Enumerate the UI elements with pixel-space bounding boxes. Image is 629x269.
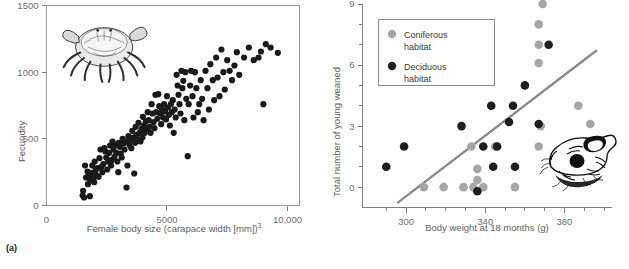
data-point — [175, 92, 181, 98]
data-point — [196, 101, 202, 107]
data-point — [214, 74, 220, 80]
data-point — [534, 120, 543, 129]
data-point — [187, 82, 193, 88]
figure-scatter-plots: 050010001500 0500010,000 — [0, 0, 629, 269]
data-point — [167, 122, 173, 128]
data-point — [189, 93, 195, 99]
data-point — [177, 110, 183, 116]
data-point — [439, 183, 448, 192]
squirrel-illustration — [540, 135, 616, 191]
data-point — [236, 72, 242, 78]
data-point — [190, 114, 196, 120]
svg-text:9: 9 — [349, 0, 354, 9]
data-point — [181, 117, 187, 123]
data-point — [213, 54, 219, 60]
data-point — [258, 48, 264, 54]
data-point — [534, 20, 543, 29]
data-point — [202, 68, 208, 74]
panel-b-xlabel: Body weight at 18 months (g) — [362, 222, 612, 233]
data-point — [201, 117, 207, 123]
svg-text:0: 0 — [349, 182, 354, 193]
data-point — [207, 61, 213, 67]
data-point — [206, 106, 212, 112]
svg-text:0: 0 — [33, 200, 38, 211]
panel-b-legend: ConiferoushabitatDeciduoushabitat — [378, 19, 494, 85]
data-point — [234, 49, 240, 55]
data-point — [204, 85, 210, 91]
data-point — [211, 97, 217, 103]
data-point — [174, 72, 180, 78]
data-point — [511, 183, 520, 192]
data-point — [119, 154, 125, 160]
data-point — [172, 106, 178, 112]
data-point — [186, 101, 192, 107]
data-point — [505, 118, 514, 127]
data-point — [115, 169, 121, 175]
panel-a-crab-fecundity: 050010001500 0500010,000 — [0, 0, 315, 269]
data-point — [155, 91, 161, 97]
panel-b-y-axis: 0369 — [349, 0, 362, 193]
data-point — [185, 153, 191, 159]
data-point — [80, 188, 86, 194]
data-point — [267, 44, 273, 50]
data-point — [574, 101, 583, 110]
data-point — [171, 130, 177, 136]
data-point — [231, 62, 237, 68]
data-point — [509, 101, 518, 110]
data-point — [182, 69, 188, 75]
data-point — [121, 146, 127, 152]
data-point — [91, 179, 97, 185]
data-point — [493, 142, 502, 151]
data-point — [87, 193, 93, 199]
data-point — [473, 176, 482, 185]
data-point — [220, 69, 226, 75]
data-point — [229, 77, 235, 83]
data-point — [81, 194, 87, 200]
data-point — [473, 165, 482, 174]
data-point — [108, 162, 114, 168]
data-point — [176, 101, 182, 107]
xlabel-superscript: 3 — [258, 222, 262, 229]
data-point — [534, 40, 543, 49]
data-point — [467, 142, 476, 151]
data-point — [192, 69, 198, 75]
data-point — [224, 57, 230, 63]
panel-b-squirrel-weaning: 0369 300340380 ConiferoushabitatDeciduou… — [315, 0, 629, 269]
data-point — [246, 44, 252, 50]
panel-a-xlabel: Female body size (carapace width [mm])3 — [46, 222, 302, 234]
data-point — [511, 163, 520, 172]
panel-b-ylabel: Total number of young weaned — [317, 25, 333, 205]
data-point — [473, 187, 482, 196]
data-point — [148, 101, 154, 107]
data-point — [131, 170, 137, 176]
svg-text:habitat: habitat — [404, 42, 432, 52]
panel-b-svg: 0369 300340380 ConiferoushabitatDeciduou… — [315, 0, 629, 240]
data-point — [487, 101, 496, 110]
data-point — [82, 162, 88, 168]
panel-a-y-axis: 050010001500 — [17, 0, 46, 211]
data-point — [457, 122, 466, 131]
data-point — [489, 163, 498, 172]
data-point — [420, 183, 429, 192]
data-point — [544, 40, 553, 49]
data-point — [534, 59, 543, 68]
data-point — [198, 77, 204, 83]
data-point — [400, 142, 409, 151]
data-point — [123, 184, 129, 190]
legend-swatch — [388, 62, 396, 70]
data-point — [275, 50, 281, 56]
panel-a-svg: 050010001500 0500010,000 — [0, 0, 315, 240]
data-point — [479, 142, 488, 151]
data-point — [459, 183, 468, 192]
data-point — [199, 96, 205, 102]
data-point — [521, 81, 530, 90]
data-point — [586, 120, 595, 129]
data-point — [193, 85, 199, 91]
data-point — [195, 109, 201, 115]
data-point — [124, 162, 130, 168]
data-point — [260, 101, 266, 107]
data-point — [96, 155, 102, 161]
svg-text:6: 6 — [349, 59, 354, 70]
data-point — [154, 116, 160, 122]
data-point — [382, 163, 391, 172]
